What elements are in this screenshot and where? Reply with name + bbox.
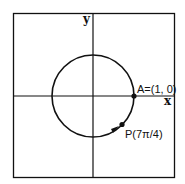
- point-a-dot: [131, 93, 136, 98]
- unit-circle-diagram: y x A=(1, 0) P(7π/4): [0, 0, 185, 184]
- x-axis-label: x: [164, 94, 172, 108]
- point-a-label: A=(1, 0): [137, 83, 176, 95]
- point-p-label: P(7π/4): [125, 128, 163, 140]
- point-p-dot: [119, 122, 124, 127]
- y-axis-label: y: [82, 12, 91, 26]
